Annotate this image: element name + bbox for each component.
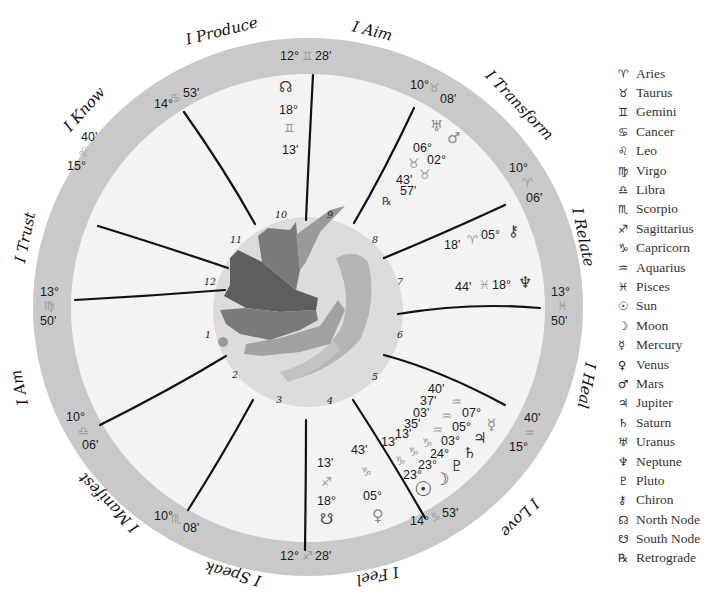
cusp-3-sign-scorpio-icon: ♏	[171, 513, 182, 525]
mercury-sign-aquarius-icon: ♒	[451, 396, 462, 408]
sun-icon: ☉	[618, 299, 636, 313]
uranus-icon: ♅	[430, 119, 443, 134]
chiron-degree: 05°	[481, 229, 500, 242]
south-node-sign-sagittarius-icon: ♐	[321, 476, 332, 488]
legend-item-leo: ♌Leo	[618, 142, 717, 161]
legend-item-aries: ♈Aries	[618, 64, 717, 83]
venus-degree: 05°	[363, 490, 382, 503]
saturn-icon: ♄	[618, 416, 636, 430]
moon-sign-capricorn-icon: ♑	[408, 446, 419, 458]
house-number-2: 2	[232, 370, 238, 380]
cusp-7-sign-pisces-icon: ♓	[557, 300, 568, 312]
legend-label: Mars	[636, 376, 664, 392]
legend-label: Gemini	[636, 104, 677, 120]
legend-label: Capricorn	[636, 240, 690, 256]
mars-degree: 02°	[427, 154, 446, 167]
north-node-icon: ☊	[279, 80, 292, 95]
cusp-3-minute: 08'	[183, 522, 199, 535]
house-number-9: 9	[327, 210, 333, 220]
venus-icon: ♀	[372, 508, 384, 524]
neptune-degree: 18°	[492, 279, 511, 292]
cusp-11-sign-cancer-icon: ♋	[170, 92, 181, 104]
south-node-icon: ☋	[320, 512, 333, 527]
aquarius-icon: ♒	[618, 261, 636, 275]
legend-item-retrograde: ℞Retrograde	[618, 549, 717, 568]
legend-label: Uranus	[636, 434, 675, 450]
legend-item-uranus: ♅Uranus	[618, 432, 717, 451]
legend-item-sagittarius: ♐Sagittarius	[618, 219, 717, 238]
cusp-1-degree: 13°	[40, 286, 59, 299]
legend-label: Cancer	[636, 124, 674, 140]
jupiter-icon: ♃	[618, 396, 636, 410]
cusp-2-minute: 06'	[82, 439, 98, 452]
cusp-9-minute: 08'	[440, 93, 456, 106]
sagittarius-icon: ♐	[618, 222, 636, 236]
neptune-sign-pisces-icon: ♓	[479, 279, 490, 291]
house-number-3: 3	[276, 395, 282, 405]
cusp-1-sign-virgo-icon: ♍	[44, 300, 55, 312]
legend-label: Neptune	[636, 454, 682, 470]
north-node-icon: ☊	[618, 513, 636, 527]
legend-item-pisces: ♓Pisces	[618, 277, 717, 296]
cusp-11-minute: 53'	[183, 87, 199, 100]
leo-icon: ♌	[618, 144, 636, 158]
legend-label: Pluto	[636, 473, 665, 489]
cusp-5-degree: 14°	[410, 515, 429, 528]
cusp-5-minute: 53'	[442, 507, 458, 520]
cusp-7-degree: 13°	[551, 286, 570, 299]
sun-sign-capricorn-icon: ♑	[395, 455, 406, 467]
legend-item-south-node: ☋South Node	[618, 529, 717, 548]
cusp-6-sign-aquarius-icon: ♒	[524, 427, 535, 439]
retrograde-icon: ℞	[618, 551, 636, 565]
neptune-minute: 44'	[455, 281, 471, 294]
cusp-10-sign-gemini-icon: ♊	[302, 50, 313, 62]
venus-icon: ♀	[618, 358, 636, 372]
cusp-12-sign-leo-icon: ♌	[78, 146, 89, 158]
cusp-4-minute: 28'	[315, 550, 331, 563]
legend-item-north-node: ☊North Node	[618, 510, 717, 529]
legend-item-capricorn: ♑Capricorn	[618, 239, 717, 258]
legend-label: Aries	[636, 66, 665, 82]
cusp-4-degree: 12°	[280, 550, 299, 563]
legend-item-pluto: ♇Pluto	[618, 471, 717, 490]
uranus-sign-taurus-icon: ♉	[408, 157, 420, 170]
cusp-8-minute: 06'	[526, 192, 542, 205]
legend-label: Jupiter	[636, 395, 673, 411]
legend-label: Taurus	[636, 85, 673, 101]
legend-item-mars: ♂Mars	[618, 374, 717, 393]
legend-label: Aquarius	[636, 260, 686, 276]
cusp-10-minute: 28'	[315, 50, 331, 63]
cusp-8-degree: 10°	[509, 162, 528, 175]
legend-label: Pisces	[636, 279, 670, 295]
cusp-9-degree: 10°	[410, 79, 429, 92]
south-node-minute: 13'	[317, 457, 333, 470]
mercury-degree: 07°	[462, 407, 481, 420]
legend-label: Leo	[636, 143, 657, 159]
legend-label: Sagittarius	[636, 221, 694, 237]
uranus-icon: ♅	[618, 435, 636, 449]
house-number-11: 11	[230, 235, 242, 245]
legend-item-sun: ☉Sun	[618, 297, 717, 316]
legend-item-virgo: ♍Virgo	[618, 161, 717, 180]
mars-icon: ♂	[618, 377, 636, 391]
uranus-retrograde-icon: ℞	[382, 196, 392, 207]
jupiter-degree: 05°	[452, 421, 471, 434]
libra-icon: ♎	[618, 183, 636, 197]
legend-item-taurus: ♉Taurus	[618, 83, 717, 102]
virgo-icon: ♍	[618, 164, 636, 178]
moon-icon: ☽	[618, 319, 636, 333]
chiron-minute: 18'	[444, 239, 460, 252]
legend-item-gemini: ♊Gemini	[618, 103, 717, 122]
legend-label: Mercury	[636, 337, 682, 353]
legend-item-venus: ♀Venus	[618, 355, 717, 374]
pisces-icon: ♓	[618, 280, 636, 294]
legend-label: Libra	[636, 182, 665, 198]
legend-label: North Node	[636, 512, 700, 528]
mercury-icon: ☿	[487, 418, 496, 433]
legend-item-saturn: ♄Saturn	[618, 413, 717, 432]
north-node-sign-gemini-icon: ♊	[284, 122, 295, 134]
cusp-2-sign-libra-icon: ♎	[78, 425, 89, 437]
house-number-7: 7	[397, 277, 403, 287]
legend-label: Scorpio	[636, 201, 678, 217]
cusp-12-degree: 15°	[67, 160, 86, 173]
